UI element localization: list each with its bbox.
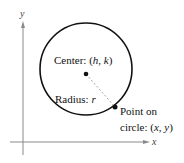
point-label-line2: circle: (x, y) (120, 121, 173, 134)
x-axis-arrow-icon (143, 140, 150, 144)
point-label-line1: Point on (120, 105, 157, 117)
circle-diagram: y x Center: (h, k) Radius: r Point on ci… (0, 0, 184, 163)
x-axis-label: x (151, 136, 157, 147)
radius-label: Radius: r (55, 93, 96, 105)
y-axis-arrow-icon (21, 21, 25, 28)
y-axis-label: y (19, 8, 25, 19)
center-label: Center: (h, k) (54, 54, 113, 67)
center-point (84, 72, 89, 77)
point-on-circle (113, 105, 118, 110)
